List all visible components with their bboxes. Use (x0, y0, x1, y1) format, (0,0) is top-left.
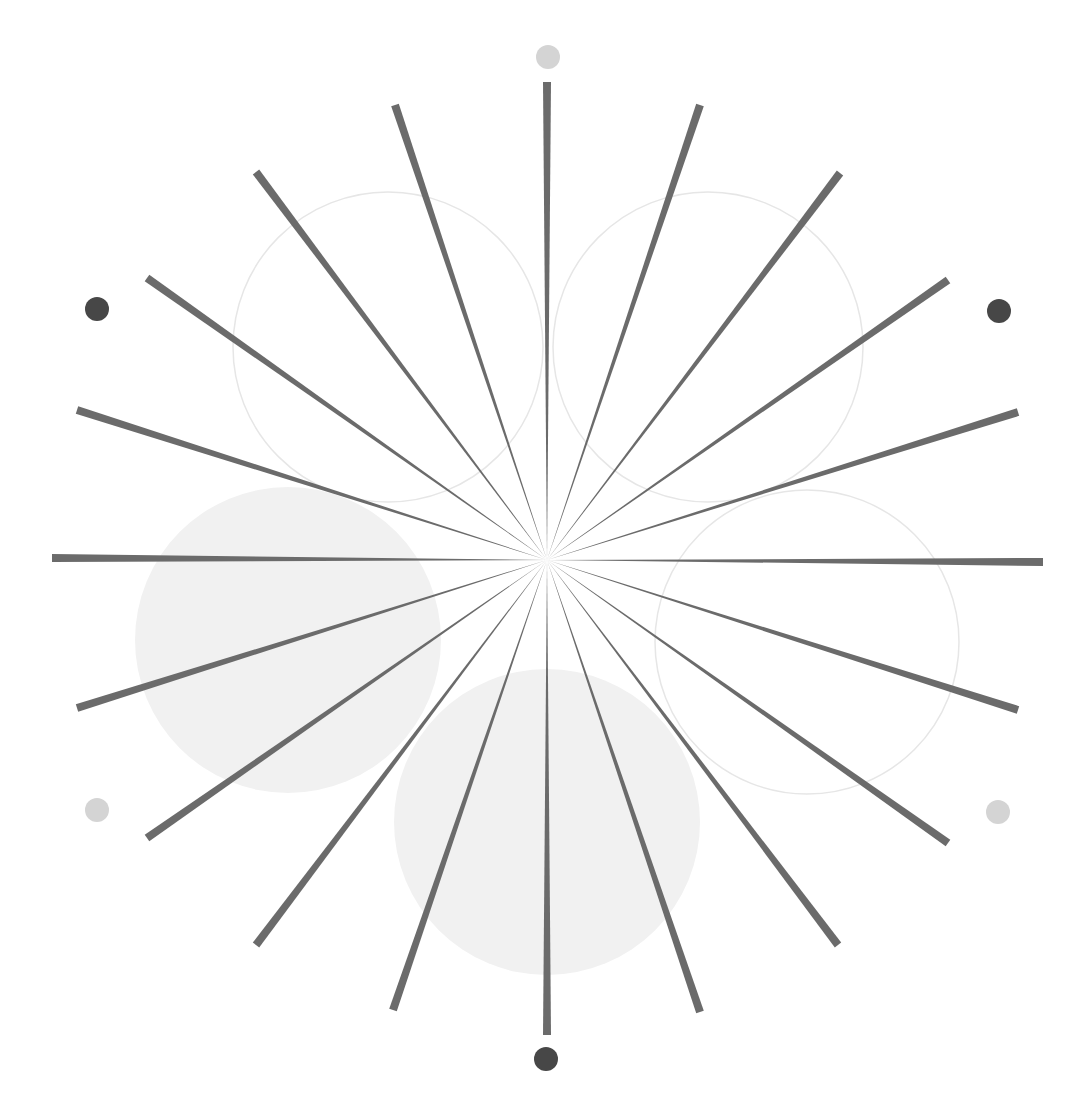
dark-dot (85, 297, 109, 321)
spoke (543, 82, 551, 560)
starburst-diagram (0, 0, 1088, 1111)
dark-dot (987, 299, 1011, 323)
light-dot (986, 800, 1010, 824)
dark-dot (534, 1047, 558, 1071)
spoke (391, 104, 547, 560)
spoke-layer (52, 82, 1043, 1035)
spoke (547, 104, 704, 560)
light-dot (85, 798, 109, 822)
light-dot (536, 45, 560, 69)
spoke (547, 408, 1019, 560)
diagram-canvas (0, 0, 1088, 1111)
spoke (547, 277, 950, 560)
spoke (547, 558, 1043, 566)
